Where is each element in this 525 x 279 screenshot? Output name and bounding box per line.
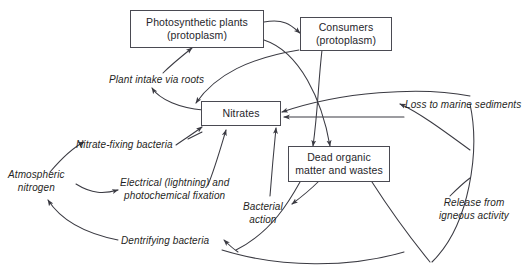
- nitrogen-cycle-diagram: Photosynthetic plants (protoplasm) Consu…: [0, 0, 525, 279]
- node-consumers-line2: (protoplasm): [316, 34, 376, 47]
- label-nitrate-fixing-bacteria: Nitrate-fixing bacteria: [76, 138, 173, 151]
- label-plant-intake-via-roots-line1: Plant intake via roots: [109, 74, 204, 85]
- label-nitrate-fixing-bacteria-line1: Nitrate-fixing bacteria: [76, 139, 173, 150]
- arrow-consumers-to-nitrates: [196, 50, 299, 103]
- node-photosynthetic-plants-line2: (protoplasm): [146, 29, 248, 42]
- node-consumers[interactable]: Consumers (protoplasm): [300, 17, 392, 51]
- label-atmospheric-nitrogen: Atmospheric nitrogen: [8, 168, 65, 194]
- label-electrical-photochemical-fixation-line2: photochemical fixation: [120, 189, 229, 202]
- label-plant-intake-via-roots: Plant intake via roots: [109, 73, 204, 86]
- arrow-atmospheric-to-fixation: [76, 184, 118, 192]
- arrow-bacterial-action-to-nitrates: [270, 128, 276, 196]
- arrow-plants-to-consumers: [264, 21, 300, 33]
- label-loss-to-marine-sediments-line1: Loss to marine sediments: [405, 99, 521, 110]
- node-dead-organic-matter[interactable]: Dead organic matter and wastes: [288, 146, 390, 182]
- node-nitrates[interactable]: Nitrates: [201, 101, 281, 126]
- arrow-nitrates-to-plant-intake: [152, 88, 203, 110]
- label-bacterial-action-line1: Bacterial: [243, 201, 283, 212]
- label-bacterial-action-line2: action: [243, 213, 283, 226]
- label-atmospheric-nitrogen-line1: Atmospheric: [8, 169, 65, 180]
- label-electrical-photochemical-fixation-line1: Electrical (lightning) and: [120, 177, 229, 188]
- node-consumers-line1: Consumers: [319, 21, 374, 33]
- arrow-consumers-to-dead-organic: [313, 50, 322, 146]
- node-nitrates-line1: Nitrates: [223, 107, 260, 119]
- label-release-from-igneous-activity: Release from igneous activity: [439, 196, 509, 222]
- curve-bottom-sweep: [222, 250, 404, 264]
- node-photosynthetic-plants-line1: Photosynthetic plants: [146, 16, 248, 28]
- curve-dead-organic-to-outer-right: [372, 182, 430, 262]
- label-electrical-photochemical-fixation: Electrical (lightning) and photochemical…: [120, 176, 229, 202]
- label-atmospheric-nitrogen-line2: nitrogen: [8, 181, 65, 194]
- arrow-dead-organic-to-bacterial-action: [292, 182, 318, 204]
- arrow-plants-to-dead-organic: [264, 40, 330, 146]
- label-release-from-igneous-activity-line2: igneous activity: [439, 209, 509, 222]
- label-dentrifying-bacteria: Dentrifying bacteria: [121, 234, 209, 247]
- arrow-plant-intake-to-plants: [163, 48, 192, 73]
- label-loss-to-marine-sediments: Loss to marine sediments: [405, 98, 521, 111]
- label-bacterial-action: Bacterial action: [243, 200, 283, 226]
- label-dentrifying-bacteria-line1: Dentrifying bacteria: [121, 235, 209, 246]
- node-photosynthetic-plants[interactable]: Photosynthetic plants (protoplasm): [130, 10, 264, 48]
- arrow-nitrate-fixing-to-nitrates: [176, 127, 202, 145]
- node-dead-organic-matter-line1: Dead organic: [307, 151, 371, 163]
- label-release-from-igneous-activity-line1: Release from: [444, 197, 505, 208]
- arrow-dentrifying-to-atmospheric: [48, 200, 118, 240]
- node-dead-organic-matter-line2: matter and wastes: [295, 164, 383, 177]
